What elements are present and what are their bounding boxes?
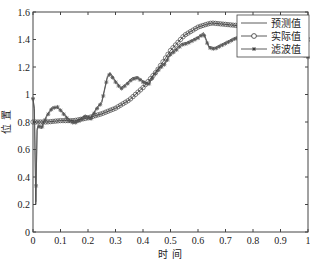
y-tick-label: 1.2 xyxy=(18,62,31,73)
x-tick-label: 1 xyxy=(306,235,311,246)
x-tick-label: 0.4 xyxy=(137,235,150,246)
x-tick-label: 0.3 xyxy=(109,235,122,246)
y-tick-label: 0 xyxy=(25,227,30,238)
legend: 预测值实际值滤波值 xyxy=(237,15,309,57)
x-axis-label: 时 间 xyxy=(158,248,181,260)
x-tick-label: 0 xyxy=(31,235,36,246)
series-3 xyxy=(31,32,310,202)
y-tick-label: 1.4 xyxy=(18,34,31,45)
y-tick-label: 0.4 xyxy=(18,172,31,183)
x-tick-label: 0.8 xyxy=(247,235,260,246)
y-axis-label: 位 置 xyxy=(0,110,12,133)
legend-label: 实际值 xyxy=(271,30,301,42)
y-tick-label: 1 xyxy=(25,89,30,100)
x-tick-label: 0.5 xyxy=(164,235,177,246)
y-tick-label: 0.6 xyxy=(18,144,31,155)
x-tick-label: 0.1 xyxy=(54,235,67,246)
y-tick-label: 0.8 xyxy=(18,117,31,128)
legend-label: 预测值 xyxy=(271,17,301,29)
circle-marker-icon xyxy=(252,34,257,39)
x-tick-label: 0.6 xyxy=(192,235,205,246)
y-tick-label: 1.6 xyxy=(18,7,31,18)
y-tick-label: 0.2 xyxy=(18,199,31,210)
legend-label: 滤波值 xyxy=(271,43,301,55)
line-chart: 00.10.20.30.40.50.60.70.80.9100.20.40.60… xyxy=(0,0,310,267)
x-tick-label: 0.7 xyxy=(219,235,232,246)
x-tick-label: 0.2 xyxy=(82,235,95,246)
x-tick-label: 0.9 xyxy=(274,235,287,246)
